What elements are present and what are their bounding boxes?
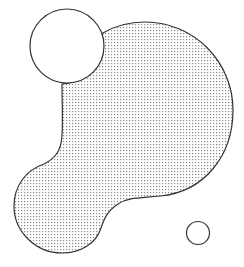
white-circle-top-left — [30, 9, 104, 83]
small-circle-bottom-right — [187, 222, 210, 245]
shapes-diagram — [0, 0, 244, 267]
figure-canvas — [0, 0, 244, 267]
